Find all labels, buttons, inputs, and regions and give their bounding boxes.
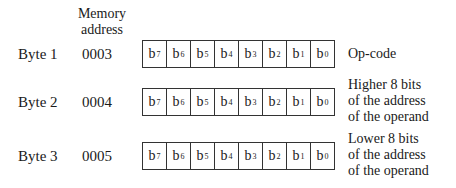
bit-cell: b4 — [215, 143, 239, 169]
bit-cell: b4 — [215, 89, 239, 115]
bit-cell: b2 — [263, 143, 287, 169]
byte-label: Byte 2 — [18, 94, 58, 111]
bit-cell: b6 — [167, 89, 191, 115]
bit-register: b7 b6 b5 b4 b3 b2 b1 b0 — [142, 40, 335, 68]
bit-cell: b7 — [143, 89, 167, 115]
bit-cell: b5 — [191, 89, 215, 115]
byte-description: Lower 8 bits of the address of the opera… — [348, 131, 429, 179]
bit-cell: b0 — [311, 89, 334, 115]
bit-cell: b0 — [311, 143, 334, 169]
byte-label: Byte 3 — [18, 148, 58, 165]
bit-cell: b3 — [239, 143, 263, 169]
bit-register: b7 b6 b5 b4 b3 b2 b1 b0 — [142, 88, 335, 116]
memory-address: 0005 — [82, 148, 112, 165]
bit-cell: b5 — [191, 41, 215, 67]
bit-cell: b2 — [263, 89, 287, 115]
bit-cell: b1 — [287, 41, 311, 67]
bit-cell: b7 — [143, 41, 167, 67]
bit-cell: b6 — [167, 143, 191, 169]
bit-cell: b1 — [287, 143, 311, 169]
bit-cell: b6 — [167, 41, 191, 67]
memory-address: 0004 — [82, 94, 112, 111]
memory-address: 0003 — [82, 46, 112, 63]
bit-cell: b3 — [239, 89, 263, 115]
bit-cell: b1 — [287, 89, 311, 115]
bit-cell: b0 — [311, 41, 334, 67]
memory-address-header: Memory address — [72, 6, 132, 38]
bit-cell: b3 — [239, 41, 263, 67]
header-line-1: Memory — [72, 6, 132, 22]
bit-cell: b2 — [263, 41, 287, 67]
byte-description: Higher 8 bits of the address of the oper… — [348, 77, 429, 125]
bit-cell: b5 — [191, 143, 215, 169]
byte-description: Op-code — [348, 46, 396, 62]
header-line-2: address — [72, 22, 132, 38]
bit-cell: b7 — [143, 143, 167, 169]
bit-register: b7 b6 b5 b4 b3 b2 b1 b0 — [142, 142, 335, 170]
byte-label: Byte 1 — [18, 46, 58, 63]
bit-cell: b4 — [215, 41, 239, 67]
